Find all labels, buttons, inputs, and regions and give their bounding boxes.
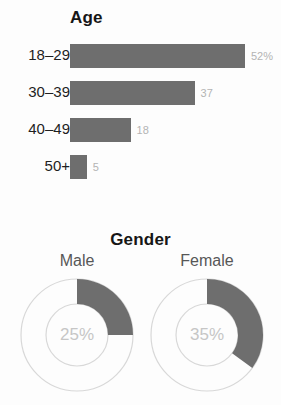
bar-row: 40–49 18 [0, 118, 281, 155]
age-chart: Age 18–29 52% 30–39 37 40–49 18 50+ [0, 0, 281, 196]
donut-female-caption: Female [142, 252, 272, 270]
donut-female-svg [146, 274, 268, 396]
bar-value-label: 37 [201, 81, 213, 105]
bar-value-label: 18 [137, 118, 149, 142]
bar-value-label: 5 [93, 155, 99, 179]
age-chart-title: Age [70, 8, 103, 28]
donut-male-graphic: 25% [16, 274, 138, 396]
bar-row: 18–29 52% [0, 44, 281, 81]
bar-fill [70, 118, 131, 142]
bar-category-label: 30–39 [0, 83, 70, 100]
bar-fill [70, 44, 245, 68]
donut-female-graphic: 35% [146, 274, 268, 396]
bar-row: 50+ 5 [0, 155, 281, 192]
bar-category-label: 40–49 [0, 120, 70, 137]
bar-track: 37 [70, 81, 213, 105]
gender-chart-title: Gender [0, 230, 281, 250]
donut-female-arc [207, 279, 263, 368]
gender-chart: Gender Male 25% Female 35% [0, 196, 281, 405]
age-bar-list: 18–29 52% 30–39 37 40–49 18 50+ [0, 44, 281, 192]
bar-fill [70, 155, 87, 179]
donut-male: Male 25% [12, 252, 142, 396]
donut-female: Female 35% [142, 252, 272, 396]
donut-male-arc [77, 279, 133, 335]
donut-inner-ring [176, 304, 238, 366]
bar-track: 5 [70, 155, 99, 179]
bar-row: 30–39 37 [0, 81, 281, 118]
donut-male-svg [16, 274, 138, 396]
bar-category-label: 50+ [0, 157, 70, 174]
bar-category-label: 18–29 [0, 46, 70, 63]
bar-fill [70, 81, 195, 105]
bar-track: 52% [70, 44, 273, 68]
donut-inner-ring [46, 304, 108, 366]
bar-track: 18 [70, 118, 149, 142]
bar-value-label: 52% [251, 44, 273, 68]
donut-male-caption: Male [12, 252, 142, 270]
